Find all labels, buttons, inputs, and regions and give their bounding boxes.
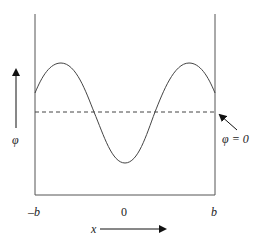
- zero-line-label: φ = 0: [222, 132, 249, 146]
- x-axis-label: x: [90, 222, 97, 236]
- tick-left: –b: [27, 205, 40, 219]
- box-walls: [35, 14, 215, 195]
- tick-center: 0: [121, 205, 127, 219]
- zero-line-pointer-arrow: [220, 115, 237, 130]
- diagram-canvas: φ φ = 0 –b 0 b x: [0, 0, 270, 242]
- tick-right: b: [211, 205, 217, 219]
- wave-curve: [35, 63, 215, 163]
- y-axis-label: φ: [12, 133, 19, 147]
